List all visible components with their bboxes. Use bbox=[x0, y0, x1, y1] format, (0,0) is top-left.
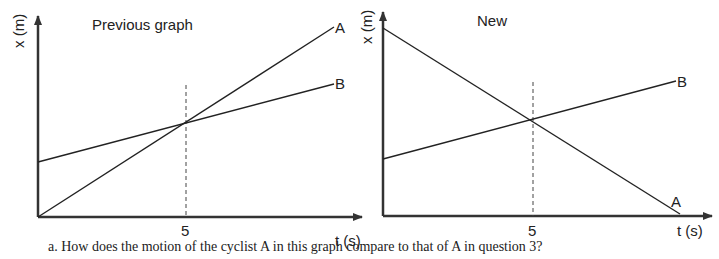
right-graph: A B New x (m) 5 t (s) bbox=[358, 10, 712, 239]
left-tick-5: 5 bbox=[181, 222, 189, 239]
right-tick-5: 5 bbox=[528, 222, 536, 239]
question-text: a. How does the motion of the cyclist A … bbox=[48, 239, 543, 255]
left-label-b: B bbox=[335, 75, 345, 92]
left-y-label: x (m) bbox=[10, 14, 27, 48]
right-line-a bbox=[383, 28, 680, 214]
graphs-canvas: A B Previous graph x (m) 5 t (s) A B New… bbox=[0, 0, 719, 259]
right-label-b: B bbox=[677, 73, 687, 90]
left-label-a: A bbox=[335, 19, 345, 36]
right-title: New bbox=[477, 12, 507, 29]
right-x-label: t (s) bbox=[677, 222, 703, 239]
left-graph: A B Previous graph x (m) 5 t (s) bbox=[10, 14, 362, 249]
right-label-a: A bbox=[671, 193, 681, 210]
right-y-label: x (m) bbox=[358, 10, 375, 44]
right-line-b bbox=[383, 81, 676, 159]
left-line-a bbox=[38, 27, 334, 217]
left-title: Previous graph bbox=[92, 16, 193, 33]
